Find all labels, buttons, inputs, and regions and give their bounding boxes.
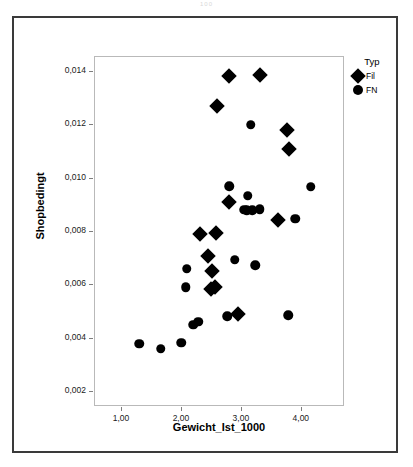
legend-item-fn[interactable]: FN [350, 83, 410, 97]
x-axis-title: Gewicht_Ist_1000 [94, 421, 344, 433]
data-point-fn [243, 191, 253, 201]
data-point-fil [222, 68, 238, 84]
legend-item-fil[interactable]: Fil [350, 69, 410, 83]
legend-label-fil: Fil [366, 71, 375, 81]
data-point-fil [204, 263, 220, 279]
y-tick-mark [89, 124, 93, 125]
data-point-fil [192, 227, 208, 243]
y-tick-label: 0,008 [46, 225, 86, 235]
y-tick-mark [89, 391, 93, 392]
y-tick-mark [89, 71, 93, 72]
y-tick-label: 0,014 [46, 65, 86, 75]
data-point-fn [182, 264, 192, 274]
data-point-fn [250, 261, 260, 271]
y-axis-title: Shopbedingt [34, 126, 46, 286]
y-tick-label: 0,002 [46, 385, 86, 395]
y-tick-mark [89, 231, 93, 232]
data-point-fil [201, 248, 217, 264]
data-point-fn [290, 214, 300, 224]
x-tick-mark [181, 407, 182, 411]
diamond-marker-icon [350, 69, 366, 83]
legend-label-fn: FN [366, 85, 377, 95]
data-point-fn [156, 344, 166, 354]
legend: Typ Fil FN [348, 56, 410, 97]
data-point-fn [223, 312, 233, 322]
data-point-fn [230, 255, 240, 265]
circle-marker-icon [350, 83, 366, 97]
data-point-fn [283, 311, 293, 321]
y-tick-mark [89, 284, 93, 285]
data-point-fn [181, 282, 191, 292]
data-point-fil [280, 122, 296, 138]
x-tick-mark [241, 407, 242, 411]
data-point-fn [246, 120, 256, 130]
plot-panel [94, 56, 344, 406]
page-number-artifact: 100 [0, 0, 413, 8]
data-point-fn [306, 182, 316, 192]
x-tick-mark [121, 407, 122, 411]
data-point-fn [135, 339, 145, 349]
y-tick-label: 0,006 [46, 278, 86, 288]
y-tick-mark [89, 338, 93, 339]
legend-title: Typ [352, 56, 392, 67]
data-points-layer [95, 57, 343, 405]
data-point-fn [177, 338, 187, 348]
data-point-fil [221, 194, 237, 210]
data-point-fil [209, 98, 225, 114]
y-tick-mark [89, 178, 93, 179]
data-point-fn [193, 317, 203, 327]
y-tick-label: 0,012 [46, 118, 86, 128]
data-point-fn [225, 181, 235, 191]
figure-frame: 0,0020,0040,0060,0080,0100,0120,0141,002… [12, 16, 398, 453]
data-point-fil [271, 212, 287, 228]
y-tick-label: 0,010 [46, 172, 86, 182]
data-point-fil [281, 141, 297, 157]
y-tick-label: 0,004 [46, 332, 86, 342]
data-point-fn [255, 204, 265, 214]
data-point-fil [208, 225, 224, 241]
data-point-fil [252, 67, 268, 83]
x-tick-mark [301, 407, 302, 411]
